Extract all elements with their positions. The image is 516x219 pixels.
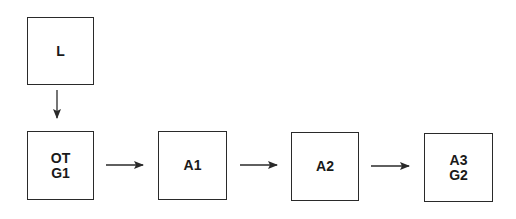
node-a1-label: A1 [184, 158, 202, 173]
node-a2-label: A2 [316, 159, 334, 174]
node-a3-g2: A3 G2 [424, 133, 493, 202]
node-l: L [27, 17, 94, 85]
node-a1: A1 [158, 131, 227, 200]
node-ot-label: OT [51, 151, 70, 166]
node-g2-label: G2 [449, 168, 468, 183]
node-a2: A2 [291, 132, 359, 201]
node-g1-label: G1 [51, 166, 70, 181]
node-l-label: L [56, 44, 65, 59]
node-ot-g1: OT G1 [27, 131, 94, 200]
node-a3-label: A3 [450, 153, 468, 168]
